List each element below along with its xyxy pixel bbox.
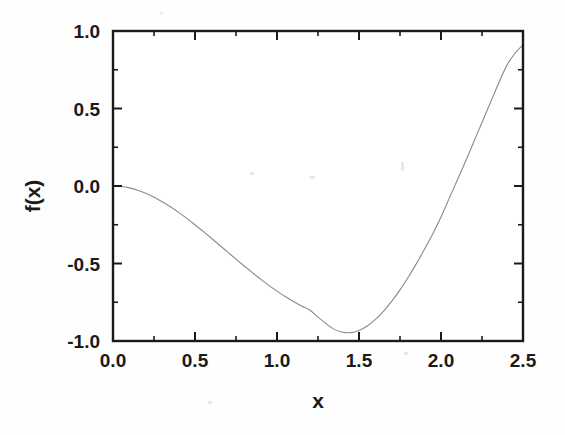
x-tick-label: 1.5 (346, 350, 373, 371)
y-tick-label: -1.0 (67, 331, 100, 352)
x-tick-label: 1.0 (264, 350, 290, 371)
y-tick-label: -0.5 (67, 254, 100, 275)
figure-container: 0.00.51.01.52.02.5 -1.0-0.50.00.51.0 x f… (0, 0, 565, 435)
y-tick-label: 1.0 (74, 21, 100, 42)
plot-canvas: 0.00.51.01.52.02.5 -1.0-0.50.00.51.0 x f… (0, 0, 565, 435)
y-tick-label: 0.0 (74, 176, 100, 197)
y-axis-tick-labels: -1.0-0.50.00.51.0 (67, 21, 100, 352)
x-axis-title: x (312, 389, 324, 412)
y-tick-label: 0.5 (74, 99, 101, 120)
x-tick-label: 0.5 (182, 350, 209, 371)
plot-area-background (113, 31, 523, 341)
x-tick-label: 2.0 (428, 350, 454, 371)
x-tick-label: 0.0 (100, 350, 126, 371)
x-axis-tick-labels: 0.00.51.01.52.02.5 (100, 350, 537, 371)
x-tick-label: 2.5 (510, 350, 537, 371)
y-axis-title: f(x) (21, 180, 44, 213)
